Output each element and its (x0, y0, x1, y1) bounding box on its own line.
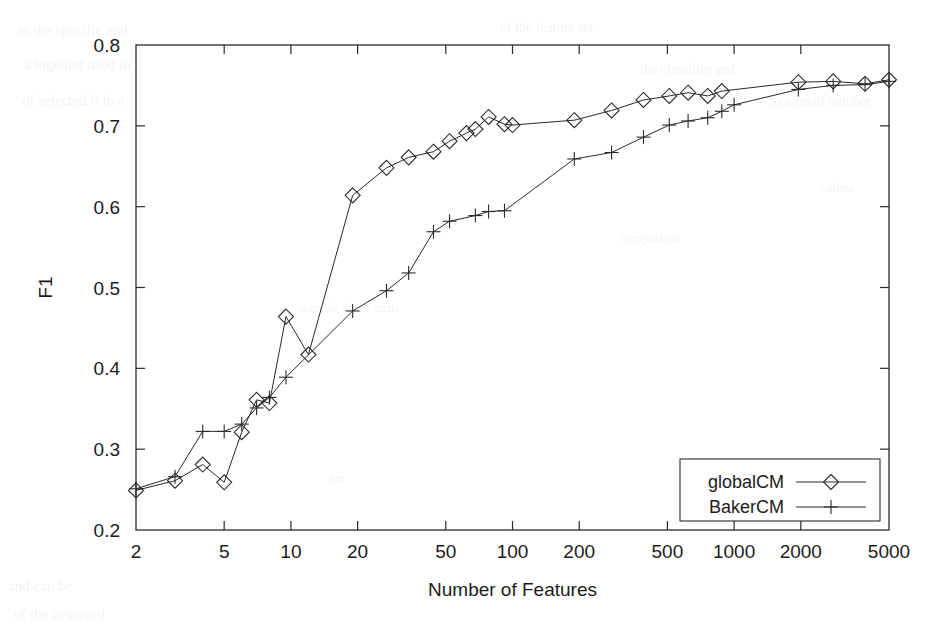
x-axis-tick-label: 5000 (868, 541, 910, 562)
x-axis-tick-label: 20 (347, 541, 368, 562)
y-axis-tick-label: 0.6 (94, 197, 120, 218)
series-bakercm (129, 74, 896, 495)
y-axis-tick-label: 0.3 (94, 439, 120, 460)
x-axis-title: Number of Features (428, 579, 597, 600)
y-axis-tick-label: 0.2 (94, 520, 120, 541)
x-axis-tick-label: 500 (652, 541, 684, 562)
series-globalcm (129, 72, 897, 498)
y-axis-tick-label: 0.7 (94, 116, 120, 137)
x-axis-tick-label: 1000 (713, 541, 755, 562)
series-line (136, 80, 889, 491)
x-axis-tick-label: 2 (131, 541, 142, 562)
f1-vs-features-line-chart: 0.20.30.40.50.60.70.82510205010020050010… (0, 0, 947, 632)
y-axis-tick-label: 0.4 (94, 358, 121, 379)
legend-sample-marker (824, 500, 838, 514)
y-axis-title: F1 (35, 276, 56, 298)
x-axis-tick-label: 100 (497, 541, 529, 562)
x-axis-tick-label: 2000 (780, 541, 822, 562)
series-line (136, 81, 889, 488)
legend-label-globalcm: globalCM (708, 472, 784, 492)
x-axis-tick-label: 5 (219, 541, 230, 562)
x-axis-tick-label: 200 (563, 541, 595, 562)
legend-label-bakercm: BakerCM (709, 497, 784, 517)
y-axis-tick-label: 0.5 (94, 278, 120, 299)
x-axis-tick-label: 10 (280, 541, 301, 562)
figure-canvas: in the specific anda together used inof … (0, 0, 947, 632)
y-axis-tick-label: 0.8 (94, 35, 120, 56)
x-axis-tick-label: 50 (435, 541, 456, 562)
